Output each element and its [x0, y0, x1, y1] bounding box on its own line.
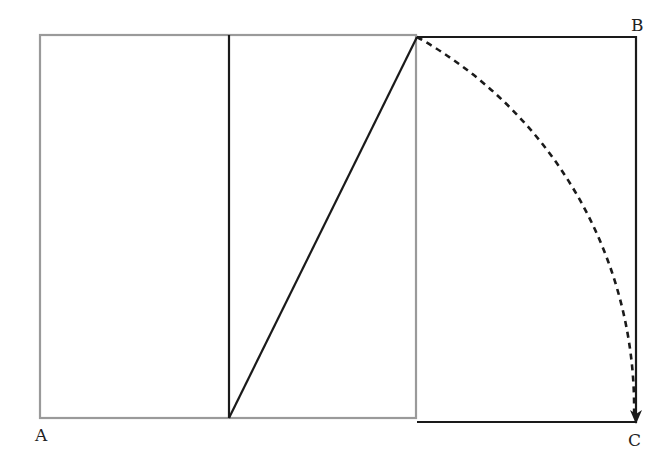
extension-rectangle: [417, 37, 636, 422]
dashed-arc: [417, 37, 634, 418]
label-a: A: [34, 425, 48, 445]
label-c: C: [628, 430, 641, 450]
golden-rectangle-diagram: A B C: [0, 0, 665, 468]
label-b: B: [631, 15, 644, 35]
diagonal-radius: [229, 37, 417, 418]
diagram-canvas: A B C: [0, 0, 665, 468]
